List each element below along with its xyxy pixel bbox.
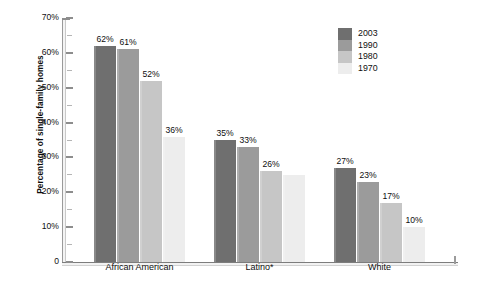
legend-swatch-1970 [338, 63, 352, 75]
bar-value-label: 26% [262, 159, 279, 169]
bar-value-label: 10% [405, 215, 422, 225]
bar: 52% [140, 81, 162, 262]
plot-area: 010%20%30%40%50%60%70% 62%61%52%36%35%33… [62, 18, 458, 262]
bar-fill [283, 175, 305, 262]
y-tick-60: 60% [66, 52, 73, 54]
bar: 62% [94, 46, 116, 262]
y-tick-label: 0 [54, 256, 59, 266]
bar: 17% [380, 203, 402, 262]
y-tick-minor [67, 70, 72, 71]
bar-value-label: 61% [119, 37, 136, 47]
legend-swatches [338, 28, 352, 74]
bar-fill [260, 171, 282, 262]
bar-fill [357, 182, 379, 262]
legend: 2003199019801970 [338, 28, 378, 74]
y-tick-70: 70% [66, 17, 73, 19]
y-tick-label: 20% [42, 186, 59, 196]
y-tick-30: 30% [66, 156, 73, 158]
bar-fill [214, 140, 236, 262]
bar-fill [94, 46, 116, 262]
bar-value-label: 36% [165, 125, 182, 135]
bar: 26% [260, 171, 282, 262]
bar-value-label: 52% [142, 69, 159, 79]
y-tick-label: 40% [42, 117, 59, 127]
bar-fill [403, 227, 425, 262]
bar-value-label: 17% [382, 191, 399, 201]
legend-label-1990: 1990 [358, 40, 378, 52]
y-tick-minor [67, 140, 72, 141]
bar-value-label: 33% [239, 135, 256, 145]
y-tick-0: 0 [66, 261, 73, 263]
category-label: African American [105, 262, 173, 272]
y-tick-minor [67, 244, 72, 245]
bar-fill [163, 137, 185, 262]
legend-labels: 2003199019801970 [358, 28, 378, 74]
bar: 23% [357, 182, 379, 262]
y-tick-label: 50% [42, 82, 59, 92]
bar-value-label: 23% [359, 170, 376, 180]
bar-group: 35%33%26% [214, 18, 305, 262]
y-tick-50: 50% [66, 87, 73, 89]
y-tick-minor [67, 105, 72, 106]
legend-swatch-1980 [338, 51, 352, 63]
bar-fill [117, 49, 139, 262]
y-tick-label: 70% [42, 12, 59, 22]
legend-label-2003: 2003 [358, 28, 378, 40]
bar-fill [380, 203, 402, 262]
y-tick-minor [67, 174, 72, 175]
y-tick-label: 60% [42, 47, 59, 57]
bar-fill [334, 168, 356, 262]
y-tick-minor [67, 209, 72, 210]
bar-fill [237, 147, 259, 262]
bar-value-label: 27% [336, 156, 353, 166]
legend-label-1980: 1980 [358, 51, 378, 63]
bar-fill [140, 81, 162, 262]
y-tick-40: 40% [66, 122, 73, 124]
bar: 36% [163, 137, 185, 262]
x-axis-end-tick [454, 256, 456, 264]
bar [283, 175, 305, 262]
bar-value-label: 62% [96, 34, 113, 44]
y-tick-minor [67, 35, 72, 36]
category-label: Latino* [245, 262, 273, 272]
bar: 33% [237, 147, 259, 262]
legend-swatch-2003 [338, 28, 352, 40]
bar: 10% [403, 227, 425, 262]
bar: 27% [334, 168, 356, 262]
legend-swatch-1990 [338, 40, 352, 52]
bar: 35% [214, 140, 236, 262]
bar-group: 62%61%52%36% [94, 18, 185, 262]
y-tick-label: 10% [42, 221, 59, 231]
legend-label-1970: 1970 [358, 63, 378, 75]
y-tick-label: 30% [42, 151, 59, 161]
category-label: White [368, 262, 391, 272]
y-tick-10: 10% [66, 226, 73, 228]
bar-chart: Percentage of single-family homes 010%20… [0, 0, 480, 289]
bar: 61% [117, 49, 139, 262]
y-tick-20: 20% [66, 191, 73, 193]
bar-value-label: 35% [216, 128, 233, 138]
